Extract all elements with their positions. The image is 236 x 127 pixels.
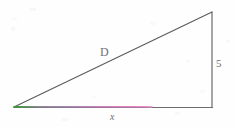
- hypotenuse-label: D: [100, 46, 109, 58]
- triangle-drawing: [0, 0, 236, 127]
- base-label: x: [110, 112, 114, 122]
- hypotenuse-line: [14, 12, 212, 107]
- vertical-side-label: 5: [216, 58, 222, 69]
- triangle-figure: D 5 x: [0, 0, 236, 127]
